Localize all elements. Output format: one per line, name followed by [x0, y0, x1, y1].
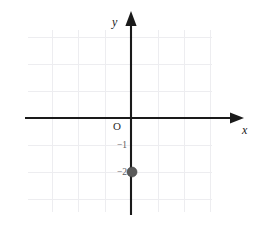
- y-axis-label: y: [111, 15, 118, 29]
- x-axis-arrowhead-icon: [230, 112, 244, 123]
- plot-svg: y x O −1 −2: [0, 0, 264, 230]
- data-point-0-minus-2: [127, 167, 137, 177]
- y-tick-label-negative-one: −1: [117, 140, 127, 150]
- coordinate-plane-figure: y x O −1 −2: [0, 0, 264, 230]
- x-axis: [25, 112, 244, 123]
- x-axis-label: x: [241, 123, 248, 137]
- y-tick-label-negative-two: −2: [117, 167, 127, 177]
- y-axis: [125, 11, 136, 215]
- origin-label: O: [113, 120, 121, 132]
- y-axis-arrowhead-icon: [125, 11, 136, 26]
